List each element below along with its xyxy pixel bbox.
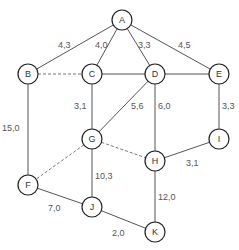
node-g: G [82, 129, 102, 149]
edge-weight-label: 4,0 [95, 40, 108, 50]
edge-weight-label: 3,1 [186, 158, 199, 168]
node-e: E [209, 64, 229, 84]
node-label: I [218, 134, 221, 144]
edge-weight-label: 6,0 [158, 101, 171, 111]
edge-weight-label: 3,3 [138, 40, 151, 50]
edge-weight-label: 12,0 [158, 192, 176, 202]
node-j: J [82, 197, 102, 217]
node-label: J [90, 202, 95, 212]
node-i: I [209, 129, 229, 149]
node-f: F [18, 175, 38, 195]
node-k: K [145, 222, 165, 242]
node-label: C [89, 69, 96, 79]
edges-layer [28, 20, 219, 232]
node-d: D [145, 64, 165, 84]
edge-weight-label: 3,1 [74, 101, 87, 111]
edge-d-g [92, 74, 155, 139]
edge-weight-label: 7,0 [48, 203, 61, 213]
node-label: D [152, 69, 159, 79]
node-b: B [18, 64, 38, 84]
edge-weight-label: 15,0 [2, 123, 20, 133]
edge-weight-label: 2,0 [112, 228, 125, 238]
node-c: C [82, 64, 102, 84]
edge-weight-label: 10,3 [95, 171, 113, 181]
node-label: A [119, 15, 125, 25]
node-label: B [25, 69, 31, 79]
edge-weight-label: 5,6 [131, 101, 144, 111]
edge-weight-label: 3,3 [222, 101, 235, 111]
edge-a-b [28, 20, 122, 74]
node-label: F [25, 180, 31, 190]
edge-weight-label: 4,3 [58, 40, 71, 50]
edge-weight-label: 4,5 [178, 40, 191, 50]
weighted-graph: 4,34,03,34,53,15,66,03,315,010,33,17,012… [0, 0, 239, 250]
node-label: K [152, 227, 158, 237]
node-label: H [152, 156, 159, 166]
node-label: G [88, 134, 95, 144]
edge-a-e [122, 20, 219, 74]
node-h: H [145, 151, 165, 171]
node-a: A [112, 10, 132, 30]
node-label: E [216, 69, 222, 79]
edge-g-f [28, 139, 92, 185]
